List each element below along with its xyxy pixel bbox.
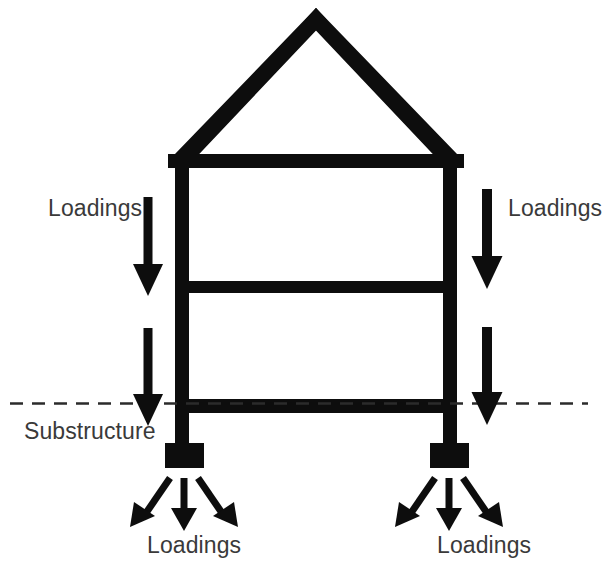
roof-left-rafter-icon xyxy=(168,8,326,168)
roof-right-rafter-icon xyxy=(306,8,464,168)
structural-load-path-diagram: Loadings Loadings Substructure Loadings … xyxy=(0,0,603,578)
footing-arrow-left-middle-icon xyxy=(171,478,197,531)
footing-arrow-right-inner-icon xyxy=(463,478,503,527)
load-arrow-upper-right-icon xyxy=(472,189,503,289)
label-loadings-upper-left: Loadings xyxy=(48,196,142,221)
footing-arrow-right-outer-icon xyxy=(395,478,435,527)
footing-load-arrows-right xyxy=(395,478,503,531)
footing-arrow-right-middle-icon xyxy=(436,478,462,531)
label-loadings-footing-left: Loadings xyxy=(147,533,241,558)
load-arrow-lower-right-icon xyxy=(472,327,503,425)
roof-gable xyxy=(168,8,464,168)
label-substructure: Substructure xyxy=(24,419,156,444)
middle-beam xyxy=(175,281,457,293)
load-arrow-lower-left-icon xyxy=(133,328,163,426)
footing-load-arrows-left xyxy=(130,478,238,531)
bottom-beam xyxy=(175,399,457,413)
label-loadings-footing-right: Loadings xyxy=(437,533,531,558)
footing-arrow-left-inner-icon xyxy=(198,478,238,527)
label-loadings-upper-right: Loadings xyxy=(508,196,602,221)
right-footing xyxy=(430,443,469,468)
roof-apex-cap-icon xyxy=(305,8,327,20)
footing-arrow-left-outer-icon xyxy=(130,478,170,527)
top-beam xyxy=(168,154,464,168)
left-footing xyxy=(165,443,204,468)
diagram-canvas xyxy=(0,0,603,578)
